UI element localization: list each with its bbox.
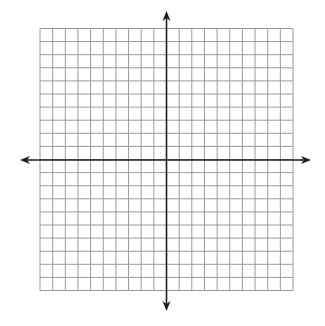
coordinate-grid-canvas xyxy=(0,0,325,326)
coordinate-plane xyxy=(0,0,325,326)
